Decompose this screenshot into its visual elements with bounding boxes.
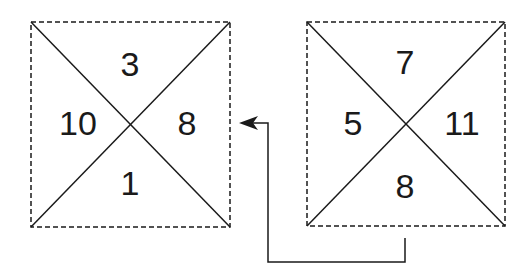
right-top-value: 7 <box>396 45 415 79</box>
left-top-value: 3 <box>121 47 140 81</box>
left-right-value: 8 <box>178 106 197 140</box>
right-left-value: 5 <box>344 106 363 140</box>
right-right-value: 11 <box>444 106 479 140</box>
left-bottom-value: 1 <box>121 166 140 200</box>
connector-arrow <box>239 116 405 262</box>
left-left-value: 10 <box>59 106 97 140</box>
right-bottom-value: 8 <box>396 169 415 203</box>
